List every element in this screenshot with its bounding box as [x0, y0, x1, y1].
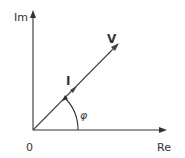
re-axis-arrow-icon	[159, 127, 167, 133]
v-vector-label: V	[107, 32, 117, 46]
phasor-diagram: Im Re 0 V I φ	[0, 0, 185, 158]
im-axis-label: Im	[14, 11, 28, 24]
im-axis-arrow-icon	[30, 10, 36, 18]
i-vector-label: I	[66, 74, 70, 88]
re-axis-label: Re	[157, 141, 171, 154]
real-axis	[33, 127, 167, 133]
origin-label: 0	[26, 141, 33, 154]
imaginary-axis	[30, 10, 36, 130]
angle-label: φ	[80, 109, 88, 122]
angle-arc	[62, 95, 78, 130]
